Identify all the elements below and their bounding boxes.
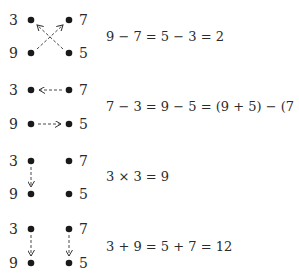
dot-bottom-left bbox=[28, 50, 35, 57]
panel-cross: 3 7 9 5 9 − 7 = 5 − 3 = 2 bbox=[0, 0, 299, 70]
dot-bottom-right bbox=[66, 260, 73, 267]
dot-bottom-left bbox=[28, 260, 35, 267]
dot-bottom-right bbox=[66, 50, 73, 57]
equation: 9 − 7 = 5 − 3 = 2 bbox=[106, 30, 224, 44]
panel-horizontal: 3 7 9 5 7 − 3 = 9 − 5 = (9 + 5) − (7 + 3… bbox=[0, 70, 299, 140]
dot-bottom-right bbox=[66, 121, 73, 128]
dot-bottom-right bbox=[66, 191, 73, 198]
dot-top-left bbox=[28, 226, 35, 233]
equation: 3 × 3 = 9 bbox=[106, 170, 169, 184]
dot-top-right bbox=[66, 87, 73, 94]
dot-bottom-left bbox=[28, 121, 35, 128]
equation: 3 + 9 = 5 + 7 = 12 bbox=[106, 240, 232, 254]
dot-top-left bbox=[28, 87, 35, 94]
dot-bottom-left bbox=[28, 191, 35, 198]
dot-top-left bbox=[28, 158, 35, 165]
equation: 7 − 3 = 9 − 5 = (9 + 5) − (7 + 3) = 4 bbox=[106, 100, 299, 114]
dot-top-right bbox=[66, 158, 73, 165]
dot-top-right bbox=[66, 226, 73, 233]
panel-vertical-single: 3 7 9 5 3 × 3 = 9 bbox=[0, 140, 299, 210]
dot-top-right bbox=[66, 17, 73, 24]
panel-vertical-double: 3 7 9 5 3 + 9 = 5 + 7 = 12 bbox=[0, 208, 299, 277]
dot-top-left bbox=[28, 17, 35, 24]
